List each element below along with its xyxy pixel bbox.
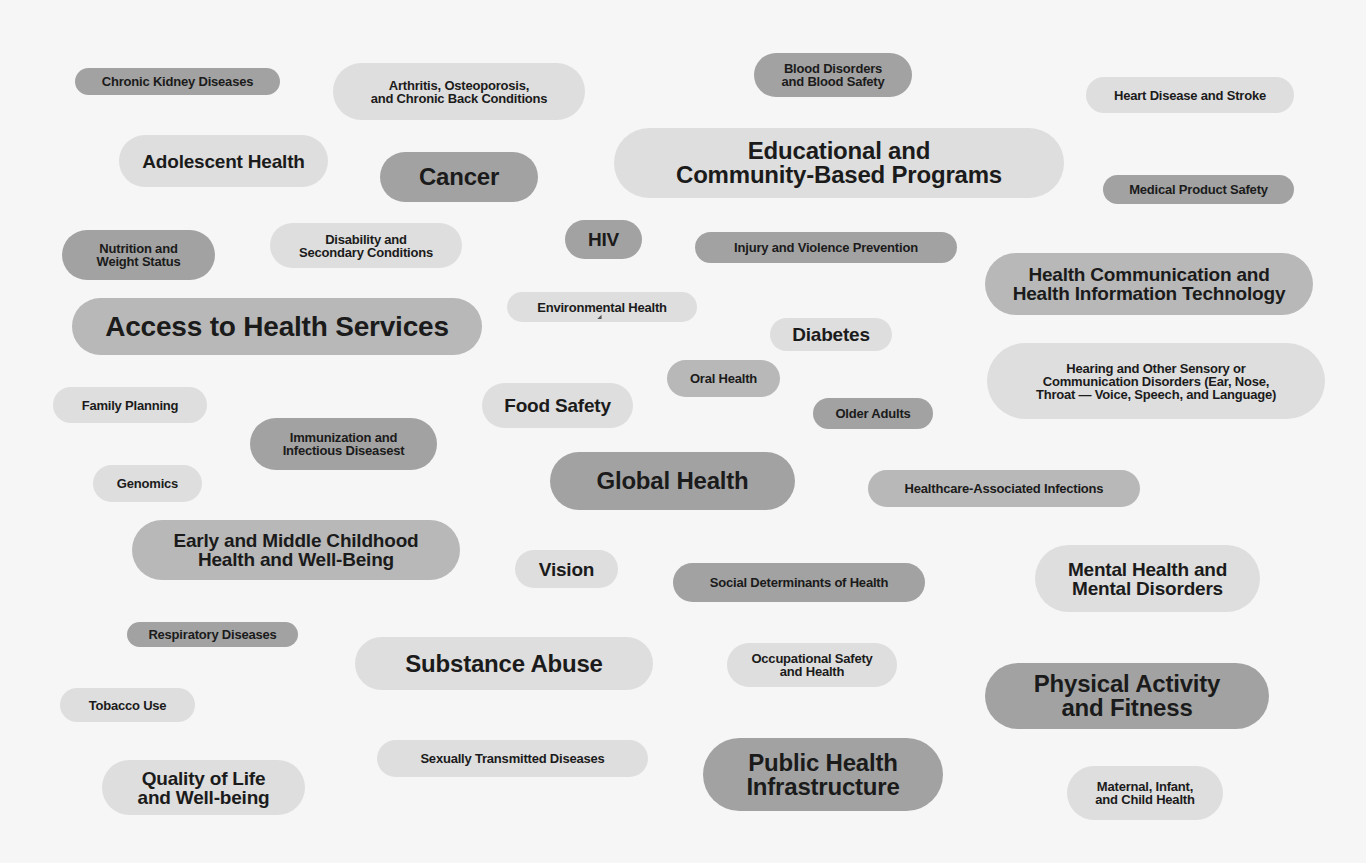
topic-global-health[interactable]: Global Health bbox=[550, 452, 795, 510]
topic-adolescent-health[interactable]: Adolescent Health bbox=[119, 135, 328, 187]
topic-heart-disease-stroke[interactable]: Heart Disease and Stroke bbox=[1086, 77, 1294, 113]
topic-injury-violence-prevention[interactable]: Injury and Violence Prevention bbox=[695, 232, 957, 263]
topic-educational-community-programs[interactable]: Educational and Community-Based Programs bbox=[614, 128, 1064, 198]
topic-social-determinants[interactable]: Social Determinants of Health bbox=[673, 563, 925, 602]
topic-public-health-infrastructure[interactable]: Public Health Infrastructure bbox=[703, 738, 943, 811]
topic-blood-disorders[interactable]: Blood Disorders and Blood Safety bbox=[754, 53, 912, 97]
topic-food-safety[interactable]: Food Safety bbox=[482, 383, 633, 428]
topic-healthcare-associated-infections[interactable]: Healthcare-Associated Infections bbox=[868, 470, 1140, 507]
topic-substance-abuse[interactable]: Substance Abuse bbox=[355, 637, 653, 690]
topic-occupational-safety[interactable]: Occupational Safety and Health bbox=[727, 643, 897, 687]
topic-immunization-infectious-diseases[interactable]: Immunization and Infectious Diseasest bbox=[250, 418, 437, 470]
topic-mental-health[interactable]: Mental Health and Mental Disorders bbox=[1035, 545, 1260, 612]
topic-cancer[interactable]: Cancer bbox=[380, 152, 538, 202]
topic-arthritis[interactable]: Arthritis, Osteoporosis, and Chronic Bac… bbox=[333, 63, 585, 120]
topic-cloud: Chronic Kidney Diseases Arthritis, Osteo… bbox=[0, 0, 1366, 863]
topic-nutrition-weight-status[interactable]: Nutrition and Weight Status bbox=[62, 230, 215, 280]
topic-oral-health[interactable]: Oral Health bbox=[667, 360, 780, 397]
topic-older-adults[interactable]: Older Adults bbox=[813, 398, 933, 429]
topic-access-to-health-services[interactable]: Access to Health Services bbox=[72, 298, 482, 355]
topic-tobacco-use[interactable]: Tobacco Use bbox=[60, 688, 195, 722]
topic-sexually-transmitted-diseases[interactable]: Sexually Transmitted Diseases bbox=[377, 740, 648, 777]
topic-hiv[interactable]: HIV bbox=[565, 220, 642, 259]
topic-hearing-sensory-communication[interactable]: Hearing and Other Sensory or Communicati… bbox=[987, 343, 1325, 419]
topic-vision[interactable]: Vision bbox=[515, 550, 618, 588]
topic-maternal-infant-child-health[interactable]: Maternal, Infant, and Child Health bbox=[1067, 766, 1223, 820]
topic-chronic-kidney-diseases[interactable]: Chronic Kidney Diseases bbox=[75, 68, 280, 95]
topic-physical-activity-fitness[interactable]: Physical Activity and Fitness bbox=[985, 663, 1269, 729]
topic-health-communication-it[interactable]: Health Communication and Health Informat… bbox=[985, 253, 1313, 315]
topic-family-planning[interactable]: Family Planning bbox=[53, 387, 207, 423]
topic-medical-product-safety[interactable]: Medical Product Safety bbox=[1103, 175, 1294, 204]
topic-early-middle-childhood[interactable]: Early and Middle Childhood Health and We… bbox=[132, 520, 460, 580]
topic-genomics[interactable]: Genomics bbox=[93, 465, 202, 502]
topic-respiratory-diseases[interactable]: Respiratory Diseases bbox=[127, 622, 298, 647]
topic-quality-of-life[interactable]: Quality of Life and Well-being bbox=[102, 760, 305, 815]
topic-disability-secondary-conditions[interactable]: Disability and Secondary Conditions bbox=[270, 223, 462, 268]
topic-diabetes[interactable]: Diabetes bbox=[770, 318, 892, 351]
